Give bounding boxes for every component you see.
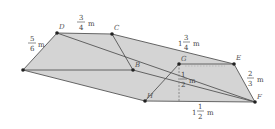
svg-text:m: m <box>38 41 45 49</box>
svg-text:4: 4 <box>79 24 84 32</box>
svg-text:1: 1 <box>198 103 202 111</box>
svg-text:4: 4 <box>184 44 189 52</box>
svg-text:1: 1 <box>192 109 196 117</box>
measure-hf: 1 1 2 m <box>192 103 214 121</box>
label-g: G <box>181 55 187 63</box>
label-e: E <box>235 54 241 62</box>
measure-ef: 2 3 m <box>247 70 264 88</box>
point-e <box>232 62 236 66</box>
point-c <box>110 32 114 36</box>
svg-text:m: m <box>193 40 200 48</box>
svg-text:2: 2 <box>198 113 202 121</box>
svg-text:m: m <box>189 77 196 85</box>
svg-text:m: m <box>207 109 214 117</box>
measure-dc: 3 4 m <box>77 14 95 32</box>
svg-text:6: 6 <box>30 45 35 53</box>
svg-text:m: m <box>257 76 264 84</box>
svg-text:1: 1 <box>181 71 185 79</box>
measure-ce: 1 3 4 m <box>178 34 200 52</box>
label-d: D <box>58 23 65 31</box>
label-f: F <box>256 93 263 101</box>
label-b: B <box>134 61 140 69</box>
label-c: C <box>114 24 120 32</box>
point-d <box>55 31 59 35</box>
svg-text:2: 2 <box>248 70 252 78</box>
svg-text:5: 5 <box>30 35 34 43</box>
svg-text:1: 1 <box>178 40 182 48</box>
point-a <box>21 68 25 72</box>
label-h: H <box>146 92 154 100</box>
svg-text:m: m <box>88 20 95 28</box>
svg-text:3: 3 <box>184 34 188 42</box>
svg-text:3: 3 <box>248 80 252 88</box>
svg-text:3: 3 <box>79 14 83 22</box>
svg-text:2: 2 <box>181 81 185 89</box>
prism-diagram: D C B G E F H 3 4 m 5 6 m 1 3 4 m 1 2 m … <box>0 0 275 129</box>
